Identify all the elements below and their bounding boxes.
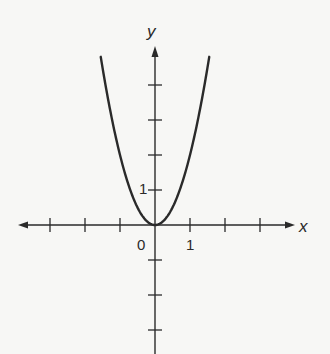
x-axis-right-arrow-icon — [285, 222, 295, 229]
x-tick-label-1: 1 — [186, 236, 194, 253]
x-axis-left-arrow-icon — [18, 222, 28, 229]
y-tick-label-1: 1 — [139, 180, 147, 197]
x-axis-label: x — [298, 217, 308, 236]
graph: x y 0 1 1 — [0, 0, 330, 354]
y-axis-up-arrow-icon — [152, 46, 159, 57]
axes — [18, 46, 295, 354]
origin-label: 0 — [137, 236, 145, 253]
y-axis-label: y — [146, 22, 157, 41]
